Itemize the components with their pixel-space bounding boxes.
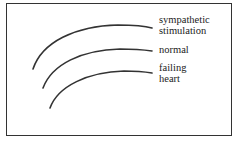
curve-failing-heart <box>50 71 152 108</box>
label-sympathetic: sympathetic <box>159 15 210 26</box>
curve-normal <box>43 49 152 88</box>
label-failing: failing <box>159 63 186 74</box>
label-normal: normal <box>159 45 189 56</box>
diagram-canvas: sympathetic stimulation normal failing h… <box>0 0 238 145</box>
label-heart: heart <box>159 74 180 85</box>
label-stimulation: stimulation <box>159 26 206 37</box>
curve-sympathetic-stimulation <box>33 25 152 69</box>
